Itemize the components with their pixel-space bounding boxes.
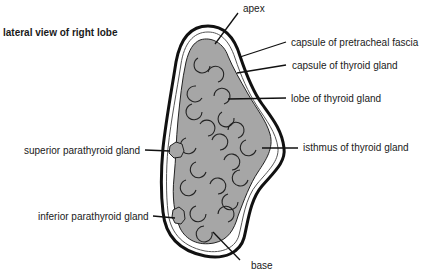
label-base: base [251,260,273,272]
label-superior-parathyroid-gland: superior parathyroid gland [24,145,140,157]
label-capsule-pretracheal-fascia: capsule of pretracheal fascia [291,37,418,49]
leader-pretracheal [240,42,286,57]
label-lobe-thyroid-gland: lobe of thyroid gland [291,93,381,105]
label-apex: apex [243,3,265,15]
label-isthmus-thyroid-gland: isthmus of thyroid gland [303,142,409,154]
label-capsule-thyroid-gland: capsule of thyroid gland [292,60,398,72]
label-inferior-parathyroid-gland: inferior parathyroid gland [38,211,149,223]
